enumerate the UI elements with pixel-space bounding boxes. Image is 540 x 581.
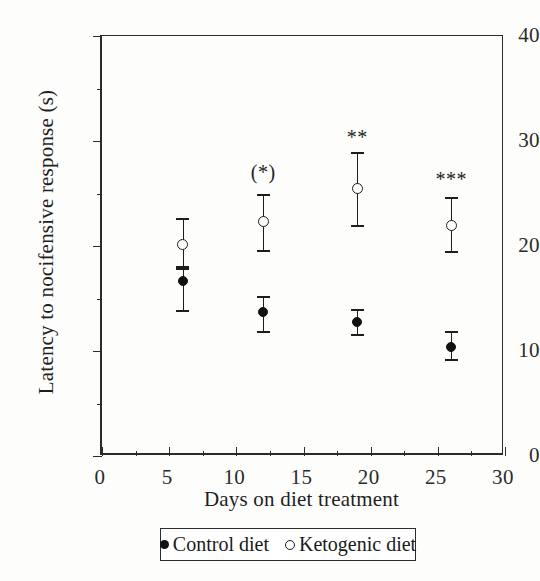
x-minor-tick (337, 451, 338, 456)
data-point-control (258, 307, 268, 317)
error-bar-cap (445, 197, 458, 199)
x-tick-label-0: 0 (70, 467, 130, 488)
legend-item: Control diet (160, 533, 269, 556)
x-tick-label-5: 5 (137, 467, 197, 488)
y-minor-tick (97, 404, 102, 405)
error-bar-cap (351, 225, 364, 227)
y-minor-tick (97, 89, 102, 90)
error-bar (183, 268, 184, 310)
data-point-control (352, 317, 362, 327)
x-tick-0 (102, 447, 103, 456)
data-point-ketogenic (352, 183, 363, 194)
legend: Control dietKetogenic diet (160, 528, 416, 561)
data-point-control (446, 342, 456, 352)
y-tick-0 (93, 456, 102, 457)
x-tick-label-10: 10 (204, 467, 264, 488)
error-bar-cap (445, 331, 458, 333)
error-bar-cap (351, 334, 364, 336)
y-tick-10 (93, 351, 102, 352)
x-minor-tick (270, 451, 271, 456)
legend-label: Ketogenic diet (299, 533, 416, 556)
x-tick-15 (304, 447, 305, 456)
error-bar-cap (257, 250, 270, 252)
x-tick-5 (169, 447, 170, 456)
x-tick-label-25: 25 (406, 467, 466, 488)
y-tick-label-40: 40 (456, 25, 540, 46)
error-bar-cap (351, 152, 364, 154)
data-point-ketogenic (258, 216, 269, 227)
plot-area: (*)***** (100, 35, 503, 455)
x-tick-25 (438, 447, 439, 456)
error-bar-cap (257, 331, 270, 333)
error-bar-cap (176, 218, 189, 220)
data-point-ketogenic (177, 239, 188, 250)
y-tick-label-0: 0 (456, 445, 540, 466)
x-axis-title: Days on diet treatment (100, 487, 503, 512)
significance-marker: (*) (251, 162, 276, 182)
significance-marker: *** (436, 169, 468, 189)
x-minor-tick (203, 451, 204, 456)
error-bar-cap (176, 266, 189, 268)
error-bar-cap (176, 268, 189, 270)
x-minor-tick (136, 451, 137, 456)
x-minor-tick (404, 451, 405, 456)
y-tick-40 (93, 36, 102, 37)
y-tick-30 (93, 141, 102, 142)
y-minor-tick (97, 194, 102, 195)
legend-item: Ketogenic diet (285, 533, 416, 556)
y-tick-label-30: 30 (456, 130, 540, 151)
y-tick-20 (93, 246, 102, 247)
x-tick-20 (371, 447, 372, 456)
x-tick-label-30: 30 (473, 467, 533, 488)
error-bar-cap (257, 194, 270, 196)
data-point-ketogenic (446, 220, 457, 231)
x-tick-label-15: 15 (272, 467, 332, 488)
y-axis-title: Latency to nocifensive response (s) (34, 32, 59, 452)
error-bar-cap (351, 309, 364, 311)
filled-circle-icon (160, 540, 169, 549)
y-minor-tick (97, 299, 102, 300)
significance-marker: ** (347, 127, 368, 147)
y-tick-label-10: 10 (456, 340, 540, 361)
open-circle-icon (285, 540, 295, 550)
x-tick-label-20: 20 (339, 467, 399, 488)
figure-panel: Latency to nocifensive response (s) Days… (0, 0, 540, 581)
y-tick-label-20: 20 (456, 235, 540, 256)
legend-label: Control diet (173, 533, 269, 556)
error-bar-cap (257, 296, 270, 298)
x-tick-10 (236, 447, 237, 456)
error-bar-cap (176, 310, 189, 312)
data-point-control (178, 276, 188, 286)
